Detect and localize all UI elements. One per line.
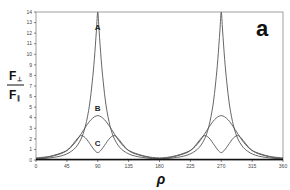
x-tick-label: 135 bbox=[124, 163, 133, 169]
x-tick-label: 90 bbox=[95, 163, 101, 169]
plot-frame bbox=[36, 12, 283, 160]
curve-label-B: B bbox=[95, 104, 101, 113]
curve-label-A: A bbox=[95, 23, 101, 32]
x-tick-label: 180 bbox=[155, 163, 164, 169]
chart: 0123456789101112131404590135180225270315… bbox=[0, 0, 290, 190]
y-tick-label: 6 bbox=[29, 93, 32, 99]
curve-A bbox=[36, 12, 283, 159]
curve-B bbox=[36, 116, 283, 158]
y-tick-label: 8 bbox=[29, 72, 32, 78]
x-tick-label: 270 bbox=[217, 163, 226, 169]
y-tick-label: 11 bbox=[27, 40, 32, 46]
curve-label-C: C bbox=[95, 139, 101, 148]
x-tick-label: 45 bbox=[64, 163, 70, 169]
y-tick-label: 3 bbox=[29, 125, 32, 131]
y-tick-label: 13 bbox=[26, 19, 32, 25]
x-tick-label: 315 bbox=[248, 163, 257, 169]
curve-C bbox=[36, 136, 283, 159]
y-tick-label: 12 bbox=[26, 30, 32, 36]
y-axis-label: F ⊥ F ∥ bbox=[7, 69, 24, 102]
y-tick-label: 10 bbox=[26, 51, 32, 57]
x-tick-label: 360 bbox=[279, 163, 288, 169]
y-tick-label: 1 bbox=[29, 146, 32, 152]
y-label-denominator: F bbox=[9, 88, 16, 102]
x-tick-label: 0 bbox=[35, 163, 38, 169]
x-axis-label: ρ bbox=[156, 171, 166, 187]
y-tick-label: 7 bbox=[29, 83, 32, 89]
y-label-denominator-sub: ∥ bbox=[17, 95, 20, 102]
y-tick-label: 4 bbox=[29, 114, 32, 120]
y-tick-label: 2 bbox=[29, 136, 32, 142]
curves bbox=[36, 12, 283, 159]
y-tick-label: 9 bbox=[29, 62, 32, 68]
y-tick-label: 14 bbox=[26, 9, 32, 15]
x-tick-label: 225 bbox=[186, 163, 195, 169]
y-label-numerator: F bbox=[9, 69, 16, 83]
axis-ticks: 0123456789101112131404590135180225270315… bbox=[26, 9, 287, 169]
y-label-numerator-sub: ⊥ bbox=[17, 76, 22, 82]
y-tick-label: 0 bbox=[29, 157, 32, 163]
panel-label: a bbox=[256, 16, 269, 41]
y-tick-label: 5 bbox=[29, 104, 32, 110]
